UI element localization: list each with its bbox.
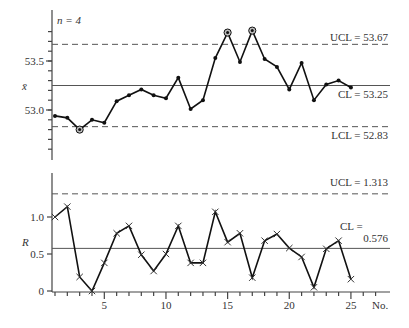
data-point [226,31,229,34]
y-tick-label: 0.5 [30,248,44,260]
x-marker [52,214,58,220]
r-ucl-label: UCL = 1.313 [330,176,389,188]
data-point [164,96,168,100]
data-point [300,61,304,65]
data-point [213,56,217,60]
data-point [324,83,328,87]
data-point [287,87,291,91]
y-tick-label: 53.0 [25,104,45,116]
data-point [312,98,316,102]
xbar-ucl-label: UCL = 53.67 [330,31,389,43]
r-y-ticks: 00.51.0 [30,211,52,297]
x-tick-label: 10 [160,299,172,311]
data-point [189,107,193,111]
data-point [115,99,119,103]
xbar-lcl-label: LCL = 52.83 [331,129,388,141]
data-point [337,79,341,83]
x-tick-label: 25 [345,299,357,311]
x-marker [138,252,144,258]
data-point [263,57,267,61]
x-axis-label: No. [372,299,388,311]
y-tick-label: 0 [39,285,45,297]
y-tick-label: 53.5 [25,55,45,67]
x-tick-label: 15 [222,299,234,311]
data-point [90,118,94,122]
x-marker [298,254,304,260]
data-point [152,93,156,97]
data-point [201,98,205,102]
r-chart: 00.51.0 510152025 R No. UCL = 1.313 CL =… [21,173,390,311]
x-marker [126,223,132,229]
r-cl-label: CL = [340,220,363,232]
xbar-y-ticks: 53.053.5 [25,32,52,150]
data-point [127,93,131,97]
r-x-ticks: 510152025 [55,292,376,311]
y-tick-label: 1.0 [30,211,44,223]
x-marker [101,260,107,266]
xbar-cl-label: CL = 53.25 [338,88,389,100]
xbar-series-line [55,31,351,130]
data-point [53,114,57,118]
data-point [78,128,81,131]
data-point [275,65,279,69]
sample-size-label: n = 4 [57,14,81,26]
data-point [349,85,353,89]
r-cl-value: 0.576 [363,232,388,244]
xbar-y-label: x̄ [21,80,27,92]
x-marker [150,268,156,274]
data-point [176,76,180,80]
x-marker [274,231,280,237]
x-marker [113,230,119,236]
data-point [238,60,242,64]
x-tick-label: 20 [284,299,296,311]
data-point [139,87,143,91]
data-point [251,29,254,32]
x-tick-label: 5 [102,299,108,311]
xbar-chart: 53.053.5 n = 4 x̄ UCL = 53.67 CL = 53.25… [21,10,390,160]
data-point [102,121,106,125]
data-point [65,116,69,120]
r-y-label: R [21,236,29,248]
control-charts: 53.053.5 n = 4 x̄ UCL = 53.67 CL = 53.25… [0,0,409,328]
x-marker [224,239,230,245]
x-marker [163,251,169,257]
